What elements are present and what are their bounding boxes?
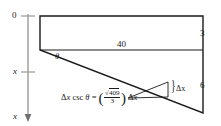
label-right-height-3: 3: [200, 29, 205, 38]
eq-lhs-func: csc: [72, 92, 83, 102]
geometry-figure: 0 x x 40 3 6 θ } Δx Δx csc θ = (√4093) Δ…: [0, 0, 221, 126]
eq-equals: =: [92, 92, 97, 102]
eq-close-paren: ): [121, 90, 126, 106]
label-right-height-6: 6: [200, 81, 205, 90]
figure-drawing: [0, 0, 221, 126]
eq-denominator: 3: [104, 97, 120, 105]
eq-numerator-radical: √409: [104, 90, 120, 97]
axis-label-zero: 0: [12, 11, 17, 20]
eq-fraction: √4093: [104, 90, 120, 106]
eq-lhs-angle: θ: [85, 92, 89, 102]
label-delta-x: Δx: [176, 84, 185, 93]
eq-numerator-value: 409: [109, 88, 120, 97]
eq-open-paren: (: [99, 90, 104, 106]
axis-arrowhead-icon: [25, 114, 32, 122]
axis-label-x-mid: x: [13, 67, 17, 76]
equation-delta-x-csc-theta: Δx csc θ = (√4093) Δx: [61, 90, 137, 106]
axis-label-x-arrow: x: [13, 112, 17, 121]
eq-rhs-var: x: [134, 92, 138, 102]
label-angle-theta: θ: [55, 51, 59, 61]
label-top-width-40: 40: [117, 40, 126, 49]
eq-lhs-var: x: [66, 92, 70, 102]
